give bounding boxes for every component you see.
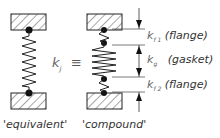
gasket-label: kg (gasket) xyxy=(147,53,213,67)
equivalent-spring xyxy=(11,14,46,109)
flange2-label: kf 2 (flange) xyxy=(147,78,208,92)
compound-caption: 'compound' xyxy=(82,118,146,131)
equivalence-symbol: ≡ xyxy=(71,55,82,70)
equivalent-stiffness-label: kj xyxy=(52,55,61,73)
flange1-label: kf 1 (flange) xyxy=(147,29,208,43)
equivalent-caption: 'equivalent' xyxy=(3,118,67,131)
compound-spring xyxy=(87,8,145,112)
